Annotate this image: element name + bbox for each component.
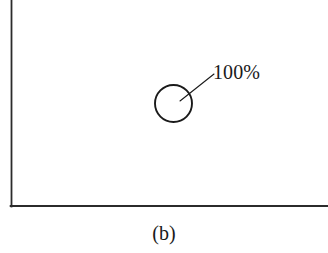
annotation-leader-line (180, 74, 214, 101)
bubble-marker-100 (155, 85, 192, 122)
figure-drawing-canvas (0, 0, 328, 253)
figure-panel-b: 100% (b) (0, 0, 328, 253)
figure-caption: (b) (0, 223, 328, 243)
bubble-value-label: 100% (213, 62, 260, 82)
